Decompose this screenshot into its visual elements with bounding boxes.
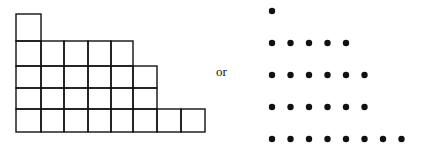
diagram-dot <box>269 72 275 78</box>
diagram-box <box>64 88 88 109</box>
diagram-box <box>88 66 111 88</box>
diagram-box <box>64 41 88 66</box>
diagram-dot <box>306 104 312 110</box>
diagram-box <box>88 88 111 109</box>
diagram-dot <box>380 136 386 142</box>
diagram-dot <box>324 104 330 110</box>
diagram-box <box>88 41 111 66</box>
diagram-dot <box>343 104 349 110</box>
diagram-dot <box>398 136 404 142</box>
diagram-dot <box>324 72 330 78</box>
diagram-box <box>133 88 157 109</box>
diagram-dot <box>343 72 349 78</box>
diagram-box <box>111 109 133 132</box>
diagram-box <box>111 41 133 66</box>
diagram-dot <box>306 136 312 142</box>
young-diagram-boxes <box>0 0 423 150</box>
diagram-dot <box>306 40 312 46</box>
diagram-box <box>41 109 64 132</box>
diagram-box <box>181 109 205 132</box>
diagram-dot <box>269 40 275 46</box>
diagram-box <box>111 66 133 88</box>
diagram-dot <box>287 72 293 78</box>
dot-diagram <box>269 8 405 142</box>
diagram-dot <box>287 40 293 46</box>
or-connector-label: or <box>216 64 227 80</box>
diagram-box <box>88 109 111 132</box>
diagram-box <box>64 66 88 88</box>
diagram-dot <box>361 72 367 78</box>
diagram-box <box>16 41 41 66</box>
diagram-dot <box>306 72 312 78</box>
diagram-dot <box>269 136 275 142</box>
diagram-box <box>16 14 41 41</box>
diagram-dot <box>324 136 330 142</box>
diagram-box <box>41 88 64 109</box>
diagram-box <box>41 66 64 88</box>
diagram-box <box>157 109 181 132</box>
diagram-dot <box>343 136 349 142</box>
diagram-dot <box>361 136 367 142</box>
diagram-canvas: or <box>0 0 423 150</box>
diagram-box <box>41 41 64 66</box>
diagram-dot <box>287 136 293 142</box>
diagram-box <box>16 88 41 109</box>
diagram-box <box>64 109 88 132</box>
diagram-dot <box>361 104 367 110</box>
diagram-dot <box>343 40 349 46</box>
diagram-box <box>111 88 133 109</box>
diagram-dot <box>269 104 275 110</box>
diagram-box <box>133 66 157 88</box>
diagram-dot <box>269 8 275 14</box>
diagram-dot <box>287 104 293 110</box>
diagram-dot <box>324 40 330 46</box>
diagram-box <box>16 66 41 88</box>
diagram-box <box>133 109 157 132</box>
diagram-box <box>16 109 41 132</box>
box-grid <box>16 14 205 132</box>
